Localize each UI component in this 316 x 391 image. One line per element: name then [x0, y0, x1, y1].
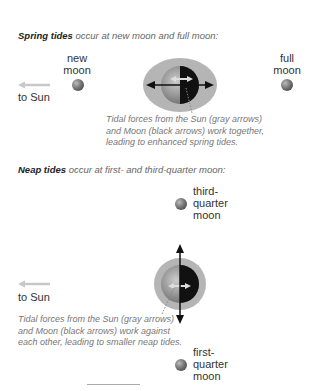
divider: [87, 384, 140, 385]
sun-direction-arrow-icon: [18, 80, 54, 90]
spring-tides-caption: Tidal forces from the Sun (gray arrows) …: [106, 114, 264, 149]
spring-tides-title: Spring tides: [18, 30, 73, 41]
third-quarter-moon-label: third- quarter moon: [193, 185, 228, 221]
spring-tides-heading: Spring tides occur at new moon and full …: [18, 30, 218, 41]
full-moon-label: full moon: [272, 52, 302, 76]
new-moon-label: new moon: [62, 52, 92, 76]
third-quarter-moon-icon: [175, 198, 187, 210]
to-sun-label-neap: to Sun: [18, 291, 50, 303]
neap-tides-subtitle: occur at first- and third-quarter moon:: [66, 164, 225, 175]
first-quarter-moon-icon: [175, 359, 187, 371]
earth-spring-tide-diagram: [140, 55, 220, 115]
full-moon-icon: [281, 79, 293, 91]
neap-tides-caption: Tidal forces from the Sun (gray arrows) …: [18, 314, 182, 349]
earth-neap-tide-diagram: [150, 244, 210, 324]
sun-direction-arrow-neap-icon: [18, 279, 54, 289]
first-quarter-moon-label: first- quarter moon: [193, 346, 228, 382]
spring-tides-subtitle: occur at new moon and full moon:: [73, 30, 218, 41]
neap-tides-title: Neap tides: [18, 164, 66, 175]
neap-tides-heading: Neap tides occur at first- and third-qua…: [18, 164, 226, 175]
to-sun-label-spring: to Sun: [18, 91, 50, 103]
new-moon-icon: [72, 79, 84, 91]
